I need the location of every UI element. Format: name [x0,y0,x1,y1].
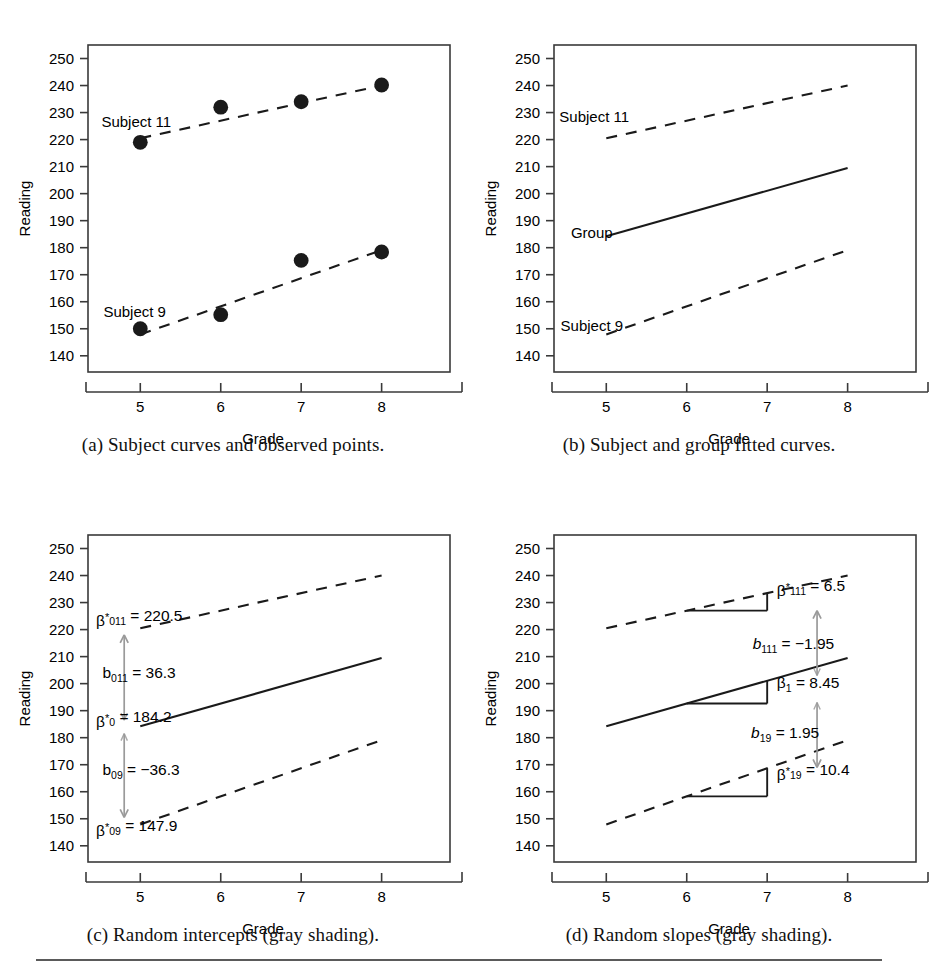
subject-11-label: Subject 11 [101,113,171,130]
fitted-curve-subject-9 [140,740,381,824]
y-tick-label: 150 [515,320,540,337]
y-tick-label: 210 [49,158,74,175]
beta-star-09-annotation: β*09 = 147.9 [96,817,177,839]
beta-star-111-annotation: β*111 = 6.5 [777,577,845,599]
y-tick-label: 230 [515,594,540,611]
panel-b-chart: 1401501601701801902002102202302402505678… [466,0,932,490]
y-tick-label: 140 [515,837,540,854]
y-tick-label: 140 [515,347,540,364]
y-tick-label: 180 [515,239,540,256]
x-tick-label: 7 [763,398,771,415]
observed-point [294,94,309,109]
y-tick-label: 190 [515,702,540,719]
beta-star-0-annotation: β*0 = 184.2 [96,708,171,730]
x-tick-label: 6 [217,888,225,905]
beta-star-19-annotation: β*19 = 10.4 [777,761,850,783]
panel-b: 1401501601701801902002102202302402505678… [466,0,932,490]
x-tick-label: 8 [843,398,851,415]
y-tick-label: 160 [515,293,540,310]
y-tick-label: 180 [515,729,540,746]
y-tick-label: 230 [515,104,540,121]
y-tick-label: 200 [49,185,74,202]
y-tick-label: 170 [515,756,540,773]
x-tick-label: 6 [683,398,691,415]
y-tick-label: 250 [515,540,540,557]
y-tick-label: 150 [515,810,540,827]
panel-c-chart: 1401501601701801902002102202302402505678… [0,490,466,980]
x-tick-label: 5 [602,888,610,905]
fitted-curve-subject-11 [140,86,381,139]
observed-point [294,253,309,268]
x-tick-label: 7 [763,888,771,905]
b-09-annotation: b09 = −36.3 [102,761,179,781]
fitted-curve-subject-9 [140,250,381,334]
y-tick-label: 180 [49,729,74,746]
y-tick-label: 160 [49,293,74,310]
panel-d-caption: (d) Random slopes (gray shading). [466,924,932,946]
y-tick-label: 210 [515,158,540,175]
fitted-curve-group [606,658,847,726]
x-tick-label: 8 [843,888,851,905]
x-tick-label: 5 [136,888,144,905]
fitted-curve-group [606,168,847,236]
panel-a: 1401501601701801902002102202302402505678… [0,0,466,490]
y-tick-label: 250 [49,540,74,557]
panel-b-caption: (b) Subject and group fitted curves. [466,434,932,456]
y-tick-label: 150 [49,810,74,827]
y-tick-label: 250 [515,50,540,67]
observed-point [374,245,389,260]
y-tick-label: 190 [49,212,74,229]
y-axis-title: Reading [16,181,33,237]
y-tick-label: 200 [49,675,74,692]
y-tick-label: 150 [49,320,74,337]
x-tick-label: 6 [217,398,225,415]
observed-point [213,100,228,115]
beta-1-annotation: β1 = 8.45 [777,674,840,694]
fitted-curve-subject-11 [606,86,847,139]
y-tick-label: 190 [515,212,540,229]
y-tick-label: 220 [515,621,540,638]
y-tick-label: 170 [49,756,74,773]
y-tick-label: 250 [49,50,74,67]
plot-frame [554,535,916,862]
y-tick-label: 180 [49,239,74,256]
observed-point [133,135,148,150]
subject-9-label: Subject 9 [561,317,624,334]
y-tick-label: 220 [49,621,74,638]
panel-c: 1401501601701801902002102202302402505678… [0,490,466,980]
beta-star-011-annotation: β*011 = 220.5 [96,607,182,629]
y-axis-title: Reading [16,671,33,727]
y-tick-label: 240 [515,77,540,94]
x-tick-label: 5 [602,398,610,415]
y-tick-label: 220 [49,131,74,148]
observed-point [213,307,228,322]
y-tick-label: 140 [49,837,74,854]
b-111-annotation: b111 = −1.95 [753,635,834,655]
fitted-curve-group [140,658,381,726]
footer-horizontal-rule [36,959,882,961]
y-tick-label: 230 [49,594,74,611]
y-axis-title: Reading [482,671,499,727]
b-19-annotation: b19 = 1.95 [751,724,819,744]
group-label: Group [571,224,613,241]
x-tick-label: 5 [136,398,144,415]
subject-11-label: Subject 11 [559,108,629,125]
x-tick-label: 8 [377,398,385,415]
panel-a-chart: 1401501601701801902002102202302402505678… [0,0,466,490]
y-tick-label: 140 [49,347,74,364]
figure-panel-grid: 1401501601701801902002102202302402505678… [0,0,932,980]
b-011-annotation: b011 = 36.3 [102,664,175,684]
y-tick-label: 160 [515,783,540,800]
y-tick-label: 230 [49,104,74,121]
subject-9-label: Subject 9 [103,303,166,320]
y-tick-label: 240 [515,567,540,584]
observed-point [374,78,389,93]
y-tick-label: 200 [515,675,540,692]
y-tick-label: 210 [49,648,74,665]
y-tick-label: 210 [515,648,540,665]
y-tick-label: 220 [515,131,540,148]
x-tick-label: 7 [297,888,305,905]
x-tick-label: 6 [683,888,691,905]
panel-a-caption: (a) Subject curves and observed points. [0,434,466,456]
y-tick-label: 240 [49,77,74,94]
